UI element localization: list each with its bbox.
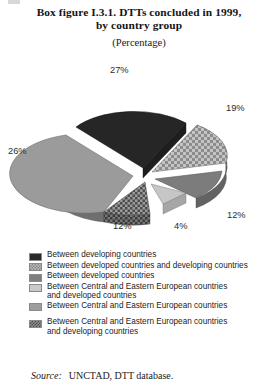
legend-label: Between developing countries [47, 250, 156, 260]
legend-swatch-icon [29, 253, 42, 261]
figure-title-block: Box figure I.3.1. DTTs concluded in 1999… [0, 6, 278, 50]
legend-label-continuation: and developing countries [47, 327, 227, 337]
figure-title-line-2: by country group [0, 19, 278, 32]
legend-swatch-icon [29, 263, 42, 271]
source-label: Source: [31, 370, 62, 381]
legend-item-developed-and-developing-countries: Between developed countries and developi… [29, 261, 269, 272]
source-value: UNCTAD, DTT database. [69, 370, 174, 381]
legend-swatch-icon [29, 274, 42, 282]
legend-label: Between Central and Eastern European cou… [47, 301, 227, 311]
legend-label-group: Between Central and Eastern European cou… [47, 317, 227, 336]
data-label-12-bottom: 12% [113, 221, 132, 231]
legend-label: Between Central and Eastern European cou… [47, 317, 227, 327]
page-edge-mark [8, 0, 20, 4]
data-label-26: 26% [8, 146, 27, 156]
legend-swatch-icon [29, 320, 42, 328]
legend-swatch-icon [29, 303, 42, 311]
legend-swatch-icon [29, 284, 42, 292]
source-note: Source:UNCTAD, DTT database. [31, 370, 173, 381]
chart-legend: Between developing countries Between dev… [29, 250, 269, 336]
legend-label: Between Central and Eastern European cou… [47, 282, 227, 292]
legend-item-cee-and-developing-countries: Between Central and Eastern European cou… [29, 317, 269, 336]
pie-chart: 27% 19% 12% 4% 12% 26% [0, 62, 278, 230]
figure-subtitle: (Percentage) [0, 35, 278, 50]
legend-item-cee-countries: Between Central and Eastern European cou… [29, 301, 269, 312]
legend-label-continuation: and developed countries [47, 291, 227, 301]
data-label-4: 4% [174, 221, 187, 231]
legend-label: Between developed countries [47, 271, 154, 281]
data-label-27: 27% [110, 65, 129, 75]
legend-item-developing-countries: Between developing countries [29, 250, 269, 261]
data-label-12-right: 12% [227, 210, 246, 220]
data-label-19: 19% [226, 103, 245, 113]
legend-item-cee-and-developed-countries: Between Central and Eastern European cou… [29, 282, 269, 301]
legend-item-developed-countries: Between developed countries [29, 271, 269, 282]
figure-page: Box figure I.3.1. DTTs concluded in 1999… [0, 0, 278, 390]
figure-title-line-1: Box figure I.3.1. DTTs concluded in 1999… [0, 6, 278, 19]
legend-label: Between developed countries and developi… [47, 261, 248, 271]
legend-label-group: Between Central and Eastern European cou… [47, 282, 227, 301]
pie-chart-graphic [0, 62, 278, 230]
